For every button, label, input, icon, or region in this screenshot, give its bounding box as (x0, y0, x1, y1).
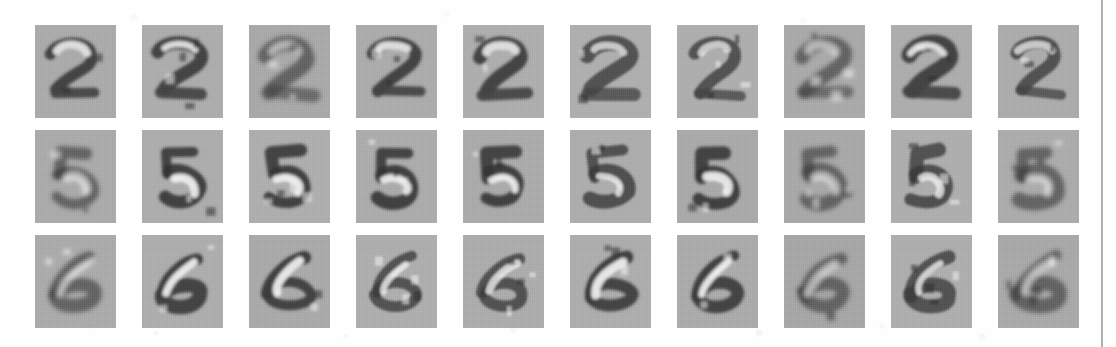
digit-glyph-5 (142, 130, 223, 223)
digit-tile (677, 25, 758, 118)
digit-glyph-2 (891, 25, 972, 118)
digit-tile (570, 235, 651, 328)
digit-tile (998, 25, 1079, 118)
digit-tile (998, 235, 1079, 328)
digit-tile (142, 130, 223, 223)
digit-glyph-6 (998, 235, 1079, 328)
digit-tile (249, 130, 330, 223)
digit-glyph-2 (998, 25, 1079, 118)
digit-glyph-6 (142, 235, 223, 328)
digit-glyph-6 (463, 235, 544, 328)
digit-tile (356, 25, 437, 118)
digit-glyph-6 (35, 235, 116, 328)
digit-glyph-5 (677, 130, 758, 223)
digit-glyph-6 (570, 235, 651, 328)
digit-tile (998, 130, 1079, 223)
digit-glyph-5 (356, 130, 437, 223)
digit-glyph-2 (570, 25, 651, 118)
digit-tile (891, 25, 972, 118)
digit-tile (463, 235, 544, 328)
digit-glyph-2 (784, 25, 865, 118)
digit-glyph-2 (249, 25, 330, 118)
digit-glyph-5 (891, 130, 972, 223)
digit-tile (463, 130, 544, 223)
digit-tile (570, 25, 651, 118)
digit-image-grid (35, 25, 1079, 328)
digit-glyph-6 (784, 235, 865, 328)
digit-tile (35, 130, 116, 223)
digit-glyph-6 (356, 235, 437, 328)
digit-glyph-5 (463, 130, 544, 223)
digit-glyph-6 (891, 235, 972, 328)
digit-glyph-6 (249, 235, 330, 328)
digit-tile (891, 130, 972, 223)
digit-tile (142, 25, 223, 118)
digit-glyph-2 (356, 25, 437, 118)
digit-tile (677, 130, 758, 223)
digit-tile (463, 25, 544, 118)
digit-glyph-2 (463, 25, 544, 118)
digit-glyph-5 (249, 130, 330, 223)
digit-tile (570, 130, 651, 223)
digit-glyph-5 (998, 130, 1079, 223)
digit-tile (784, 130, 865, 223)
digit-tile (35, 25, 116, 118)
digit-glyph-5 (784, 130, 865, 223)
digit-tile (249, 25, 330, 118)
digit-tile (356, 235, 437, 328)
digit-glyph-5 (570, 130, 651, 223)
digit-tile (356, 130, 437, 223)
digit-tile (784, 235, 865, 328)
digit-tile (142, 235, 223, 328)
digit-glyph-6 (677, 235, 758, 328)
page-edge-rule (1101, 0, 1103, 347)
digit-tile (677, 235, 758, 328)
digit-glyph-2 (142, 25, 223, 118)
digit-glyph-2 (677, 25, 758, 118)
digit-tile (784, 25, 865, 118)
digit-tile (35, 235, 116, 328)
digit-glyph-2 (35, 25, 116, 118)
digit-tile (249, 235, 330, 328)
figure-page (0, 0, 1116, 347)
digit-glyph-5 (35, 130, 116, 223)
digit-tile (891, 235, 972, 328)
